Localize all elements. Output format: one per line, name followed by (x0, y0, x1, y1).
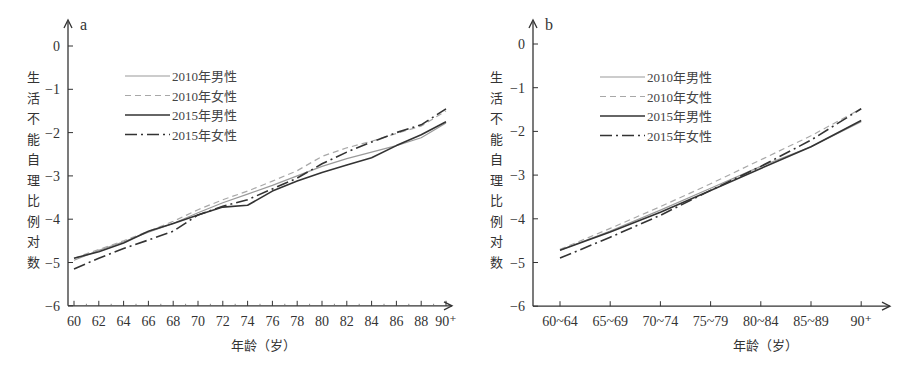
x-tick-label: 66 (141, 314, 155, 329)
y-tick-label: −5 (45, 256, 60, 271)
y-tick-label: −6 (45, 299, 60, 314)
y-axis-label-char: 例 (27, 214, 40, 229)
legend-label: 2015年女性 (172, 128, 237, 143)
y-tick-label: −5 (510, 256, 525, 271)
legend-label: 2015年男性 (647, 109, 712, 124)
y-axis-label-char: 对 (490, 234, 503, 249)
legend-label: 2015年男性 (172, 108, 237, 123)
y-axis-label-char: 能 (490, 132, 503, 147)
y-tick-label: −2 (510, 124, 525, 139)
y-axis-label-char: 例 (490, 214, 503, 229)
series-line (74, 109, 446, 269)
x-tick-label: 78 (290, 314, 304, 329)
chart-figure: a0−1−2−3−4−5−6生活不能自理比例对数6062646668707274… (0, 0, 901, 371)
x-tick-label: 72 (216, 314, 230, 329)
panel-label: b (545, 16, 553, 33)
x-tick-label: 82 (340, 314, 354, 329)
x-tick-label: 68 (166, 314, 180, 329)
x-tick-label: 85~89 (793, 314, 829, 329)
y-axis-label-char: 不 (490, 111, 503, 126)
y-tick-label: −4 (510, 212, 525, 227)
y-tick-label: −1 (510, 81, 525, 96)
x-tick-label: 62 (92, 314, 106, 329)
y-axis-label-char: 比 (490, 193, 503, 208)
x-tick-label: 65~69 (592, 314, 628, 329)
x-tick-label: 60~64 (542, 314, 578, 329)
y-axis-label-char: 活 (490, 91, 503, 106)
y-axis-label-char: 生 (27, 70, 40, 85)
x-axis-label: 年龄（岁） (231, 338, 296, 353)
x-tick-label: 80 (315, 314, 329, 329)
y-axis-label-char: 生 (490, 70, 503, 85)
panel-label: a (80, 16, 87, 33)
y-axis-label-char: 对 (27, 234, 40, 249)
y-axis-label-char: 数 (490, 255, 503, 270)
y-tick-label: −3 (510, 168, 525, 183)
y-axis-label-char: 比 (27, 193, 40, 208)
y-axis-label-char: 活 (27, 91, 40, 106)
legend-label: 2015年女性 (647, 129, 712, 144)
x-tick-label: 70 (191, 314, 205, 329)
x-tick-label: 64 (117, 314, 131, 329)
y-tick-label: 0 (518, 37, 525, 52)
y-tick-label: −3 (45, 169, 60, 184)
x-tick-label: 75~79 (693, 314, 729, 329)
x-tick-label: 90⁺ (435, 314, 456, 329)
legend-label: 2010年男性 (647, 70, 712, 85)
x-tick-label: 60 (67, 314, 81, 329)
y-axis-label-char: 理 (490, 173, 503, 188)
x-tick-label: 70~74 (643, 314, 679, 329)
legend-label: 2010年女性 (172, 89, 237, 104)
y-axis-label-char: 能 (27, 132, 40, 147)
y-tick-label: −1 (45, 82, 60, 97)
panel-a: a0−1−2−3−4−5−6生活不能自理比例对数6062646668707274… (27, 16, 457, 353)
y-tick-label: −6 (510, 299, 525, 314)
y-axis-label-char: 不 (27, 111, 40, 126)
y-tick-label: −4 (45, 212, 60, 227)
y-axis-label-char: 理 (27, 173, 40, 188)
x-tick-label: 86 (389, 314, 403, 329)
y-axis-label-char: 自 (27, 152, 40, 167)
legend-label: 2010年女性 (647, 90, 712, 105)
y-axis-label-char: 自 (490, 152, 503, 167)
x-axis-label: 年龄（岁） (733, 338, 798, 353)
x-tick-label: 80~84 (743, 314, 779, 329)
x-tick-label: 74 (241, 314, 255, 329)
series-line (74, 111, 446, 258)
x-tick-label: 90⁺ (851, 314, 872, 329)
y-axis-label-char: 数 (27, 255, 40, 270)
x-tick-label: 76 (265, 314, 279, 329)
x-tick-label: 88 (414, 314, 428, 329)
y-tick-label: 0 (53, 39, 60, 54)
panel-b: b0−1−2−3−4−5−6生活不能自理比例对数60~6465~6970~747… (490, 16, 891, 353)
y-tick-label: −2 (45, 126, 60, 141)
legend-label: 2010年男性 (172, 69, 237, 84)
x-tick-label: 84 (365, 314, 379, 329)
